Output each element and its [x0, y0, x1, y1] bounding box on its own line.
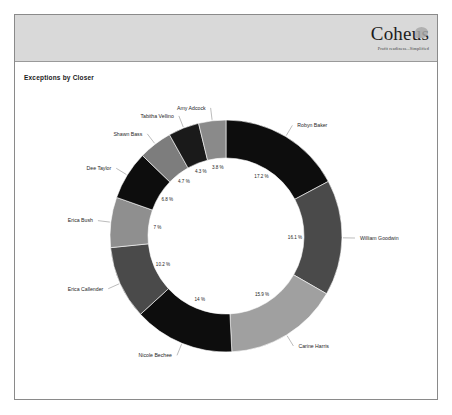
- label-leader-line: [147, 134, 154, 144]
- slice-percent-label: 15.9 %: [255, 292, 269, 297]
- label-leader-line: [98, 221, 110, 222]
- label-leader-line: [177, 344, 182, 355]
- label-leader-line: [108, 284, 119, 289]
- slice-category-label: Erica Bush: [68, 217, 93, 223]
- slice-category-label: Erica Callender: [68, 286, 104, 292]
- slice-percent-label: 17.2 %: [254, 174, 268, 179]
- logo-tagline-text: Profit readiness...Simplified: [345, 46, 429, 52]
- donut-chart-svg: Robyn Baker17.2 %William Goodwin16.1 %Ca…: [15, 84, 437, 399]
- slice-category-label: Robyn Baker: [297, 122, 327, 128]
- slice-percent-label: 6.8 %: [161, 197, 173, 202]
- donut-slice[interactable]: [226, 120, 328, 199]
- donut-slice-group: [110, 120, 342, 352]
- slice-category-label: Carine Harris: [298, 343, 329, 349]
- slice-percent-label: 3.8 %: [212, 165, 224, 170]
- slice-percent-label: 14 %: [195, 297, 205, 302]
- slice-category-label: Amy Adcock: [177, 105, 206, 111]
- page-title: Exceptions by Closer: [24, 74, 94, 81]
- label-leader-line: [286, 125, 292, 135]
- label-leader-line: [116, 168, 126, 174]
- coheus-logo: Coheus Profit readiness...Simplified: [345, 17, 431, 59]
- slice-category-label: Shawn Bass: [113, 131, 142, 137]
- slice-percent-label: 4.3 %: [195, 169, 207, 174]
- slice-category-label: Tabitha Vellino: [140, 113, 174, 119]
- slice-percent-label: 7 %: [154, 225, 162, 230]
- slice-percent-label: 16.1 %: [288, 235, 302, 240]
- slice-category-label: Dee Taylor: [87, 165, 112, 171]
- label-leader-line: [179, 116, 183, 127]
- slice-category-label: William Goodwin: [360, 235, 399, 241]
- report-header-band: Coheus Profit readiness...Simplified: [15, 15, 437, 62]
- donut-chart: Robyn Baker17.2 %William Goodwin16.1 %Ca…: [15, 84, 437, 399]
- slice-percent-label: 4.7 %: [178, 179, 190, 184]
- report-body: Exceptions by Closer Robyn Baker17.2 %Wi…: [15, 62, 437, 399]
- label-leader-line: [211, 108, 212, 120]
- report-document-frame: Coheus Profit readiness...Simplified Exc…: [14, 14, 438, 400]
- slice-category-label: Nicole Bechee: [139, 352, 173, 358]
- logo-swoosh-icon: [415, 27, 428, 38]
- donut-slice[interactable]: [230, 275, 327, 352]
- screenshot-page: Coheus Profit readiness...Simplified Exc…: [0, 0, 452, 415]
- label-leader-line: [287, 336, 293, 346]
- slice-percent-label: 10.2 %: [156, 262, 170, 267]
